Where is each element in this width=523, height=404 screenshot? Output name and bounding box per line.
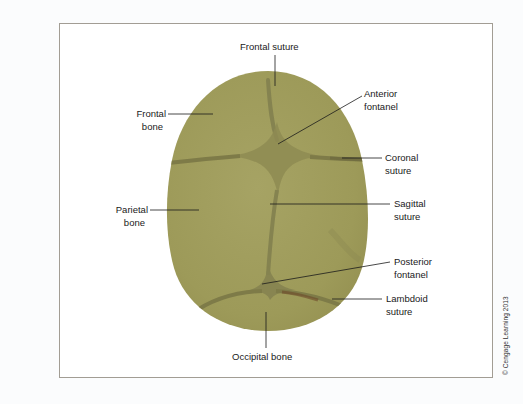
skull (167, 71, 372, 331)
label-parietal-bone: Parietal bone (110, 204, 148, 229)
label-frontal-suture: Frontal suture (240, 41, 299, 54)
label-posterior-fontanel: Posterior fontanel (394, 256, 432, 281)
copyright-credit: © Cengage Learning 2013 (502, 296, 509, 375)
label-frontal-bone: Frontal bone (130, 108, 166, 133)
label-coronal-suture: Coronal suture (385, 152, 418, 177)
label-occipital-bone: Occipital bone (232, 351, 292, 364)
fetal-skull-diagram (0, 0, 523, 404)
label-sagittal-suture: Sagittal suture (394, 198, 426, 223)
label-anterior-fontanel: Anterior fontanel (364, 88, 398, 113)
label-lambdoid-suture: Lambdoid suture (386, 293, 428, 318)
